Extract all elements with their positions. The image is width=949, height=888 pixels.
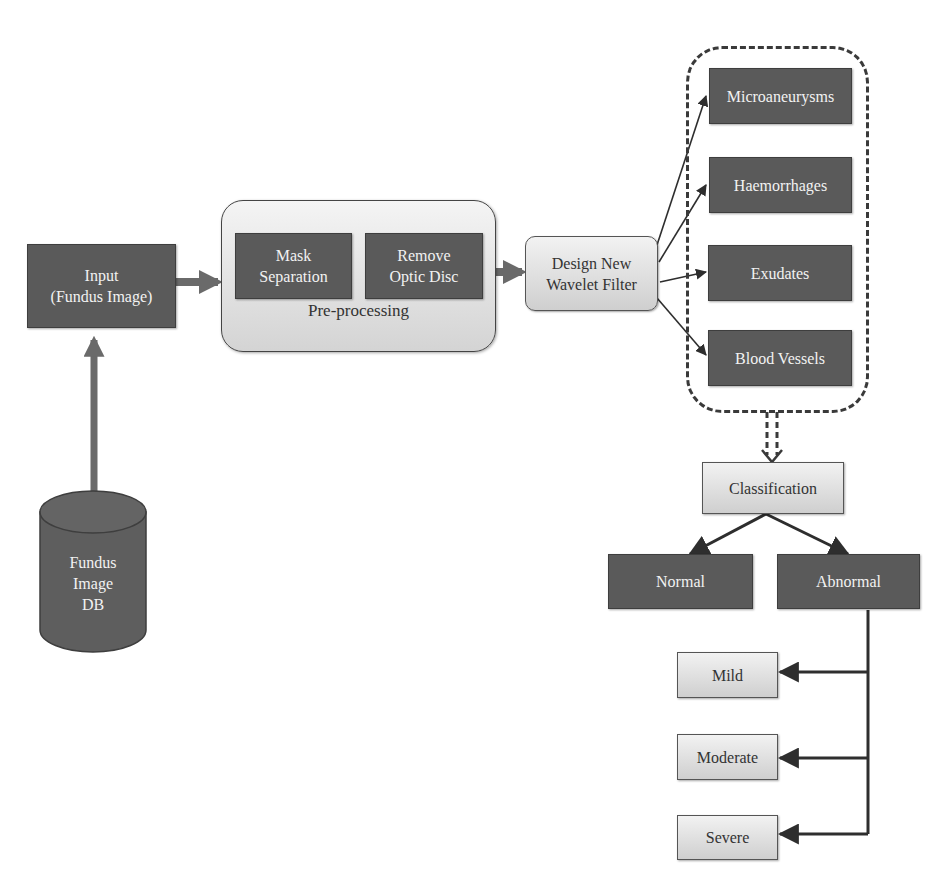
classification-label: Classification	[729, 478, 817, 499]
remove-optic-disc-line2: Optic Disc	[390, 266, 459, 287]
severity-label: Mild	[712, 665, 743, 686]
classification-to-outcomes-arrows	[690, 514, 848, 554]
db-label-line3: DB	[38, 594, 148, 615]
severity-label: Moderate	[697, 747, 758, 768]
abnormal-to-severity-arrows	[780, 610, 868, 834]
severity-severe-box: Severe	[677, 815, 778, 860]
input-fundus-image-box: Input (Fundus Image)	[27, 244, 176, 328]
preprocessing-group: Mask Separation Remove Optic Disc Pre-pr…	[221, 200, 496, 352]
mask-separation-line2: Separation	[259, 266, 327, 287]
feature-haemorrhages-box: Haemorrhages	[709, 157, 852, 213]
severity-moderate-box: Moderate	[677, 734, 778, 780]
severity-mild-box: Mild	[677, 652, 778, 698]
wavelet-line1: Design New	[546, 253, 637, 274]
severity-label: Severe	[706, 827, 750, 848]
feature-blood-vessels-box: Blood Vessels	[708, 330, 852, 386]
feature-label: Blood Vessels	[735, 348, 825, 369]
preprocessing-label: Pre-processing	[222, 301, 495, 321]
remove-optic-disc-box: Remove Optic Disc	[365, 233, 483, 299]
feature-label: Exudates	[751, 263, 810, 284]
outcome-label: Abnormal	[816, 571, 881, 592]
feature-label: Haemorrhages	[734, 175, 827, 196]
feature-microaneurysms-box: Microaneurysms	[709, 68, 852, 124]
outcome-normal-box: Normal	[608, 554, 753, 609]
feature-exudates-box: Exudates	[708, 245, 852, 301]
db-label-line2: Image	[38, 573, 148, 594]
input-label-line1: Input	[51, 265, 153, 286]
db-label-line1: Fundus	[38, 552, 148, 573]
feature-label: Microaneurysms	[727, 86, 835, 107]
classification-box: Classification	[702, 462, 844, 514]
mask-separation-box: Mask Separation	[235, 233, 352, 299]
outcome-label: Normal	[656, 571, 705, 592]
wavelet-line2: Wavelet Filter	[546, 274, 637, 295]
remove-optic-disc-line1: Remove	[390, 245, 459, 266]
features-to-classification-arrow	[762, 412, 782, 462]
input-label-line2: (Fundus Image)	[51, 286, 153, 307]
fundus-image-db-cylinder: Fundus Image DB	[38, 490, 148, 655]
outcome-abnormal-box: Abnormal	[777, 554, 920, 609]
mask-separation-line1: Mask	[259, 245, 327, 266]
design-wavelet-filter-box: Design New Wavelet Filter	[525, 236, 658, 311]
